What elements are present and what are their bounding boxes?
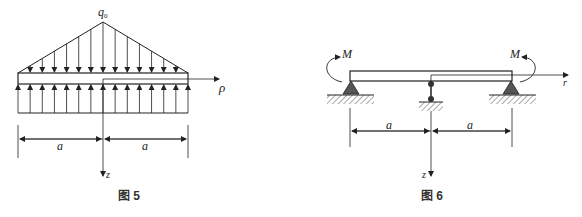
figure-6: M M r z a a 图 6 bbox=[327, 47, 568, 203]
left-pin-support bbox=[343, 81, 359, 94]
figure-5: ρ z q0 a a 图 5 bbox=[18, 5, 225, 203]
z-axis-label: z bbox=[421, 169, 426, 180]
diagram-canvas: ρ z q0 a a 图 5 M bbox=[0, 0, 582, 217]
z-axis-label: z bbox=[105, 169, 110, 180]
dim-label-left: a bbox=[386, 118, 392, 132]
center-ground-hatch bbox=[419, 102, 443, 111]
right-ground-hatch bbox=[489, 95, 536, 104]
center-link-bottom-pin bbox=[428, 96, 434, 102]
dim-label-right: a bbox=[467, 118, 473, 132]
downward-load-arrows bbox=[30, 22, 176, 72]
left-moment-label: M bbox=[341, 47, 353, 61]
r-axis-label: r bbox=[563, 77, 567, 88]
figure-5-caption: 图 5 bbox=[118, 189, 140, 203]
left-ground-hatch bbox=[327, 95, 374, 104]
dim-label-left: a bbox=[57, 139, 63, 153]
right-moment-arrow bbox=[520, 57, 535, 82]
rho-axis-label: ρ bbox=[218, 80, 225, 95]
right-moment-label: M bbox=[509, 47, 521, 61]
load-label: q0 bbox=[98, 5, 108, 20]
dim-label-right: a bbox=[142, 139, 148, 153]
left-moment-arrow bbox=[327, 57, 342, 82]
r-axis bbox=[431, 75, 568, 83]
figure-6-caption: 图 6 bbox=[421, 189, 443, 203]
right-pin-support bbox=[503, 81, 519, 94]
